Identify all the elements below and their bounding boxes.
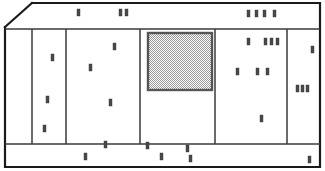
hatched-window — [148, 33, 212, 90]
drawing-canvas — [0, 0, 325, 171]
mark-top-band-1 — [77, 9, 80, 16]
mark-top-band-4 — [247, 10, 250, 17]
mark-bottom-band-5 — [186, 145, 189, 152]
mark-bottom-band-4 — [160, 153, 163, 160]
mark-panel-2-2 — [89, 64, 92, 71]
mark-panel-4-2 — [264, 38, 267, 45]
mark-panel-4-8 — [260, 115, 263, 122]
mark-bottom-band-3 — [146, 142, 149, 149]
mark-panel-1-2 — [46, 96, 49, 103]
mark-panel-1-1 — [51, 54, 54, 61]
mark-panel-5-2 — [296, 85, 299, 92]
mark-panel-5-1 — [311, 46, 314, 53]
mark-panel-4-7 — [266, 68, 269, 75]
mark-panel-2-3 — [109, 99, 112, 106]
mark-panel-2-1 — [113, 43, 116, 50]
bevel-corner-edge — [5, 3, 32, 27]
mark-panel-4-3 — [270, 38, 273, 45]
mark-panel-4-5 — [236, 68, 239, 75]
mark-top-band-3 — [125, 9, 128, 16]
mark-panel-5-4 — [306, 85, 309, 92]
window-hatch-fill — [148, 33, 212, 90]
mark-panel-4-4 — [276, 38, 279, 45]
mark-top-band-7 — [273, 10, 276, 17]
mark-bottom-band-6 — [189, 155, 192, 162]
mark-top-band-2 — [119, 9, 122, 16]
mark-panel-4-1 — [247, 38, 250, 45]
mark-top-band-5 — [255, 10, 258, 17]
mark-panel-5-3 — [301, 85, 304, 92]
mark-top-band-6 — [263, 10, 266, 17]
mark-panel-4-6 — [256, 68, 259, 75]
mark-bottom-band-1 — [104, 141, 107, 148]
mark-bottom-band-2 — [84, 153, 87, 160]
mark-panel-1-3 — [43, 125, 46, 132]
mark-bottom-band-7 — [308, 156, 311, 163]
facade-elevation-svg — [0, 0, 325, 171]
